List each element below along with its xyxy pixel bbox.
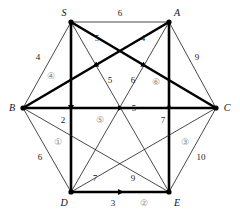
vertex-label-E: E [174,198,180,208]
vertex-dot-B [20,105,25,110]
vertex-label-B: B [9,103,15,113]
vertex-label-S: S [62,8,67,18]
edge-weight-S-A: 6 [118,9,123,18]
step-circle-3: ③ [181,138,189,147]
edge-weight-C-D: 7 [93,174,98,183]
edge-weight-B-E: 9 [131,174,136,183]
vertex-dot-E [166,189,171,194]
step-circle-4: ④ [47,72,55,81]
edge-weight-S-E: 5 [108,76,113,85]
vertex-label-D: D [60,198,67,208]
edge-weight-B-D: 6 [38,153,43,162]
diagram-canvas: 6425594675697103SABCDE①②③④⑤⑥ [0,0,240,217]
edge-weight-A-B: 4 [141,34,146,43]
edge-weight-A-D: 6 [131,76,136,85]
edge-weight-A-C: 9 [195,53,200,62]
vertex-dot-S [68,19,73,24]
vertex-dot-A [166,19,171,24]
network-graph [0,0,240,217]
edge-C-E [169,108,216,192]
vertex-dot-D [68,189,73,194]
vertex-label-C: C [224,103,231,113]
step-circle-5: ⑤ [96,116,104,125]
edge-weight-B-C: 5 [132,104,137,113]
step-circle-6: ⑥ [152,78,160,87]
edge-weight-S-D: 2 [61,116,66,125]
edge-weight-S-C: 5 [95,34,100,43]
edge-weight-S-B: 4 [36,53,41,62]
vertex-dot-C [213,105,218,110]
edge-weight-D-E: 3 [111,199,116,208]
edge-weight-E-A: 7 [161,116,166,125]
vertex-label-A: A [174,8,180,18]
step-circle-2: ② [140,199,148,208]
edge-line [169,108,216,192]
step-circle-1: ① [54,138,62,147]
edge-weight-C-E: 10 [197,153,206,162]
